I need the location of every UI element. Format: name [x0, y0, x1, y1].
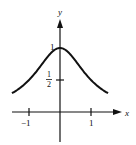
x-axis-label: x	[124, 108, 129, 118]
x-tick-label-pos1: 1	[89, 118, 94, 128]
x-tick-label-neg1: −1	[21, 118, 31, 128]
y-tick-label-1: 1	[50, 42, 55, 52]
y-tick-label-half-num: 1	[47, 70, 51, 79]
y-axis-label: y	[57, 7, 62, 17]
y-tick-label-half-den: 2	[47, 80, 51, 89]
x-axis-arrow-icon	[113, 109, 122, 115]
function-plot: y x 1 1 2 −1 1	[0, 0, 136, 145]
y-axis-arrow-icon	[57, 19, 63, 28]
